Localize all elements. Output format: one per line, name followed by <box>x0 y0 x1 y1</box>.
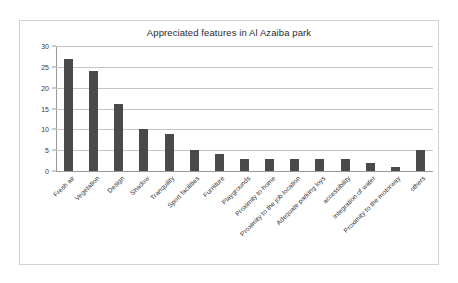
bar[interactable] <box>215 154 224 171</box>
bar[interactable] <box>139 129 148 171</box>
x-axis-label: Shadow <box>128 173 151 196</box>
x-axis-label: Fresh air <box>51 173 76 198</box>
plot-area <box>56 46 433 171</box>
y-tick-label-30: 30 <box>41 43 49 50</box>
x-axis-label: Adequate parking loys <box>275 173 328 226</box>
bar[interactable] <box>64 59 73 172</box>
bar[interactable] <box>416 150 425 171</box>
chart-page: Appreciated features in Al Azaiba park 0… <box>0 0 458 283</box>
x-axis-label: Furniture <box>202 173 227 198</box>
x-axis-label: others <box>409 173 429 193</box>
bar[interactable] <box>265 159 274 172</box>
y-tick-label-5: 5 <box>45 147 49 154</box>
x-label-text: Adequate parking loys <box>275 173 328 226</box>
y-tick-label-0: 0 <box>45 168 49 175</box>
bar[interactable] <box>89 71 98 171</box>
y-tick-label-15: 15 <box>41 105 49 112</box>
x-label-text: Fresh air <box>51 173 76 198</box>
bar[interactable] <box>391 167 400 171</box>
x-axis-label: Integration of water <box>331 173 378 220</box>
y-tick-label-25: 25 <box>41 63 49 70</box>
x-label-text: Integration of water <box>331 173 378 220</box>
bar[interactable] <box>366 163 375 171</box>
bar[interactable] <box>114 104 123 171</box>
x-label-text: Furniture <box>202 173 227 198</box>
y-tick-label-10: 10 <box>41 126 49 133</box>
bar[interactable] <box>315 159 324 172</box>
chart-title: Appreciated features in Al Azaiba park <box>20 27 438 38</box>
chart-frame: Appreciated features in Al Azaiba park 0… <box>19 20 439 265</box>
x-axis-label: Design <box>106 173 127 194</box>
x-label-text: others <box>409 173 429 193</box>
bar[interactable] <box>240 159 249 172</box>
gridline-0 <box>56 171 433 172</box>
x-label-text: Shadow <box>128 173 151 196</box>
bar-series <box>56 46 433 171</box>
y-tick-label-20: 20 <box>41 84 49 91</box>
bar[interactable] <box>190 150 199 171</box>
x-axis-category-labels: Fresh airVegetationDesignShadowTranquili… <box>56 173 433 265</box>
x-label-text: Design <box>106 173 127 194</box>
bar[interactable] <box>290 159 299 172</box>
bar[interactable] <box>165 134 174 172</box>
bar[interactable] <box>341 159 350 172</box>
y-axis-tick-labels: 051015202530 <box>20 46 56 171</box>
